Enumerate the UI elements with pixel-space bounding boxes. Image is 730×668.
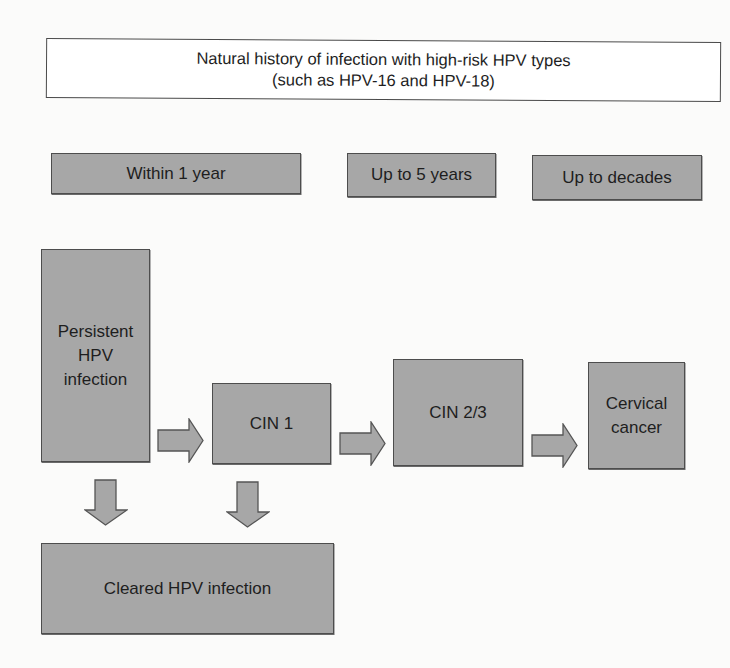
timeline-label: Up to 5 years (371, 165, 472, 185)
timeline-up-to-5-years: Up to 5 years (347, 153, 496, 197)
stage-label-line: Cervical (606, 392, 667, 416)
title-line-1: Natural history of infection with high-r… (196, 48, 570, 71)
stage-cervical-cancer: Cervical cancer (588, 362, 685, 469)
arrow-down-icon (226, 481, 270, 528)
stage-label-line: cancer (611, 416, 662, 440)
timeline-label: Within 1 year (126, 164, 225, 184)
stage-label: CIN 1 (250, 412, 293, 436)
timeline-within-1-year: Within 1 year (51, 153, 301, 194)
arrow-right-icon (157, 418, 204, 463)
stage-label-line: HPV (78, 344, 113, 368)
stage-label-line: Persistent (58, 320, 134, 344)
diagram-title: Natural history of infection with high-r… (46, 38, 721, 102)
stage-label: Cleared HPV infection (104, 577, 271, 601)
stage-label: CIN 2/3 (429, 401, 487, 425)
timeline-up-to-decades: Up to decades (532, 155, 702, 200)
arrow-right-icon (339, 421, 386, 466)
stage-label-line: infection (64, 368, 127, 392)
arrow-down-icon (84, 479, 128, 526)
timeline-label: Up to decades (562, 168, 672, 188)
stage-cin-1: CIN 1 (212, 383, 331, 464)
title-line-2: (such as HPV-16 and HPV-18) (272, 69, 495, 91)
arrow-right-icon (531, 423, 578, 468)
stage-cleared-hpv-infection: Cleared HPV infection (41, 543, 334, 634)
stage-cin-2-3: CIN 2/3 (393, 359, 523, 466)
stage-persistent-hpv-infection: Persistent HPV infection (41, 249, 150, 462)
